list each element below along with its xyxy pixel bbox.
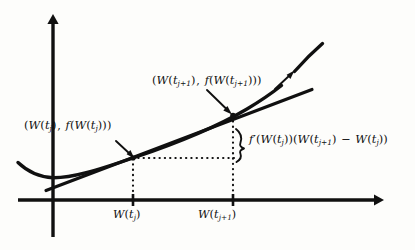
tick-label-w-tj1: W(tj+1) (198, 209, 236, 221)
figure-canvas: (W(tj+1), f(W(tj+1))) (W(tj), f(W(tj))) … (0, 0, 415, 250)
tick-label-w-tj: W(tj) (113, 209, 140, 221)
brace-increment-group (236, 129, 244, 162)
function-curve-upper-segment (295, 44, 323, 72)
label-point-tj1: (W(tj+1), f(W(tj+1))) (152, 75, 262, 88)
label-increment-term: f′(W(tj))(W(tj+1) − W(tj)) (249, 134, 388, 147)
brace-increment (236, 129, 244, 162)
arrow-to-point-tj1-shaft (207, 90, 228, 110)
vertical-axis-arrowhead (47, 14, 58, 24)
arrow-to-curve-top-shaft (275, 75, 290, 89)
guide-lines-group (133, 116, 234, 199)
label-point-tj: (W(tj), f(W(tj))) (24, 120, 111, 133)
horizontal-axis-arrowhead (374, 194, 384, 205)
